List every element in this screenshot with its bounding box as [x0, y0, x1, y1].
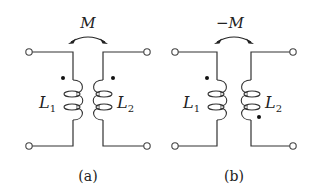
terminal-right-top [144, 49, 150, 55]
inductor-l1-coil [208, 80, 227, 120]
figure-caption: (a) [78, 168, 97, 184]
figure-a: ML1L2(a) [26, 14, 150, 184]
figure-b: −ML1L2(b) [172, 14, 296, 184]
inductor-l1-coil [64, 80, 83, 120]
terminal-right-bottom [144, 143, 150, 149]
wire-left-top [178, 52, 217, 80]
coupling-arc [71, 37, 105, 42]
coupling-label: −M [216, 14, 245, 32]
polarity-dot-right [111, 76, 115, 80]
terminal-right-bottom [290, 143, 296, 149]
wire-right-top [103, 52, 144, 80]
wire-left-top [32, 52, 73, 80]
polarity-dot-left [61, 76, 65, 80]
wire-right-top [251, 52, 290, 80]
arrowhead-left-icon [68, 39, 76, 45]
arrowhead-right-icon [100, 39, 108, 45]
coupled-inductors-diagram: ML1L2(a) −ML1L2(b) [0, 0, 326, 194]
terminal-left-top [26, 49, 32, 55]
wire-left-bottom [32, 120, 73, 146]
polarity-dot-right [257, 115, 261, 119]
terminal-left-bottom [26, 143, 32, 149]
inductor-label-l1: L1 [182, 93, 200, 114]
inductor-label-l2: L2 [264, 93, 282, 114]
arrowhead-left-icon [214, 39, 222, 45]
inductor-label-l2: L2 [116, 93, 134, 114]
terminal-left-top [172, 49, 178, 55]
wire-right-bottom [251, 120, 290, 146]
coupling-label: M [79, 14, 96, 32]
figure-caption: (b) [224, 168, 244, 184]
terminal-left-bottom [172, 143, 178, 149]
polarity-dot-left [205, 76, 209, 80]
inductor-l2-coil [93, 80, 112, 120]
inductor-label-l1: L1 [38, 93, 56, 114]
coupling-arc [217, 37, 251, 42]
arrowhead-right-icon [246, 39, 254, 45]
wire-right-bottom [103, 120, 144, 146]
inductor-l2-coil [241, 80, 260, 120]
terminal-right-top [290, 49, 296, 55]
wire-left-bottom [178, 120, 217, 146]
